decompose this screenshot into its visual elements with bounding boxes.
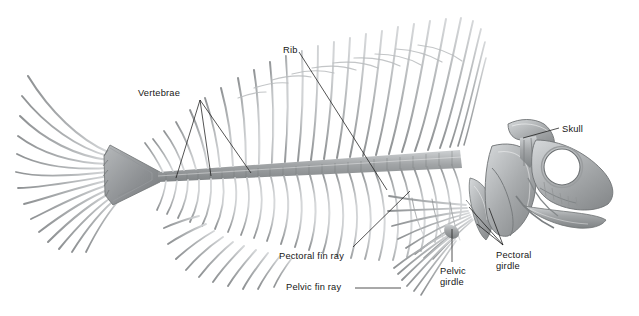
anal-fin-rays <box>164 216 292 289</box>
hypural-plate <box>103 145 160 205</box>
skull <box>485 120 613 237</box>
fish-skeleton-illustration <box>0 0 639 316</box>
label-pectoral-fin-ray: Pectoral fin ray <box>279 251 344 262</box>
label-skull: Skull <box>562 124 583 135</box>
neural-spines <box>145 18 486 172</box>
pectoral-fin-rays <box>388 196 473 259</box>
label-rib: Rib <box>283 45 298 56</box>
label-pelvic-fin-ray: Pelvic fin ray <box>286 282 341 293</box>
label-pelvic-girdle: Pelvic girdle <box>440 266 466 287</box>
label-pectoral-girdle: Pectoral girdle <box>496 250 532 271</box>
label-vertebrae: Vertebrae <box>138 88 180 99</box>
leader-pectoral-fin-ray <box>353 191 410 247</box>
leader-vertebrae-1 <box>176 100 200 178</box>
figure-canvas: Vertebrae Rib Skull Pectoral fin ray Pel… <box>0 0 639 316</box>
